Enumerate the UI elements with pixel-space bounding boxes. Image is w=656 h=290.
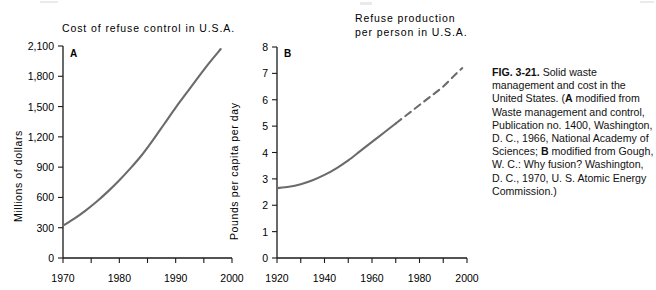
scan-artifact [640, 1, 654, 3]
chart-b-plot [215, 20, 485, 290]
chart-b-series-line [277, 123, 396, 188]
chart-b-series [277, 68, 462, 188]
figure-caption: FIG. 3-21. Solid waste management and co… [492, 66, 654, 198]
caption-figure-number: FIG. 3-21. [492, 66, 540, 78]
scan-artifact [40, 1, 58, 3]
chart-b-series-line [396, 68, 463, 123]
caption-marker-b: B [541, 145, 549, 157]
scan-artifact [360, 2, 372, 5]
figure-root: Cost of refuse control in U.S.A. A Milli… [0, 0, 656, 290]
chart-b-axes [272, 47, 467, 263]
caption-marker-a: A [565, 92, 573, 104]
